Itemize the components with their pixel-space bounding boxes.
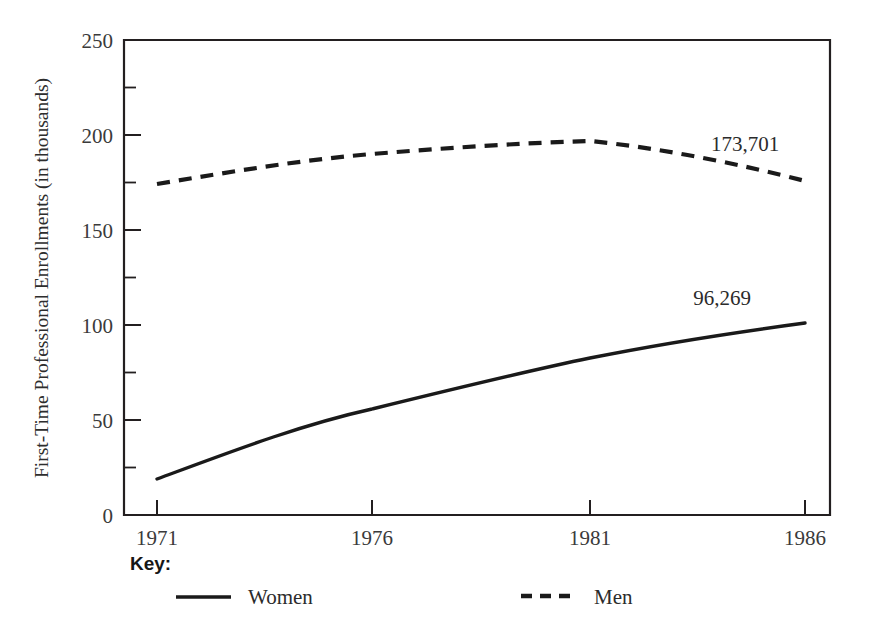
legend-label-women: Women bbox=[248, 585, 313, 609]
data-label-women: 96,269 bbox=[693, 286, 751, 310]
y-axis-minor-ticks bbox=[124, 88, 136, 468]
y-tick-label-150: 150 bbox=[82, 219, 114, 243]
chart-page: 250 200 150 100 50 0 First-Time Professi… bbox=[0, 0, 879, 630]
series-line-women bbox=[157, 323, 805, 479]
x-tick-label-1976: 1976 bbox=[351, 526, 393, 550]
y-tick-label-100: 100 bbox=[82, 314, 114, 338]
y-tick-label-250: 250 bbox=[82, 29, 114, 53]
x-axis-ticks bbox=[157, 500, 805, 515]
y-tick-label-50: 50 bbox=[92, 409, 113, 433]
legend-entry-men[interactable]: Men bbox=[521, 585, 633, 609]
line-chart: 250 200 150 100 50 0 First-Time Professi… bbox=[0, 0, 879, 630]
plot-frame bbox=[124, 40, 830, 515]
legend-label-men: Men bbox=[594, 585, 633, 609]
y-tick-label-0: 0 bbox=[103, 504, 114, 528]
x-tick-label-1971: 1971 bbox=[136, 526, 178, 550]
legend-entry-women[interactable]: Women bbox=[176, 585, 313, 609]
x-tick-label-1986: 1986 bbox=[784, 526, 826, 550]
data-label-men: 173,701 bbox=[711, 132, 779, 156]
legend-key-title: Key: bbox=[130, 553, 171, 574]
y-axis-title: First-Time Professional Enrollments (in … bbox=[31, 78, 53, 478]
x-tick-label-1981: 1981 bbox=[569, 526, 611, 550]
y-tick-label-200: 200 bbox=[82, 124, 114, 148]
series-line-men bbox=[157, 141, 805, 184]
